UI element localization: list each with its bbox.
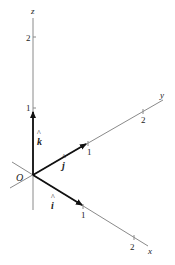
y-axis-label: y	[159, 90, 164, 100]
x-tick-label-1: 1	[81, 210, 86, 220]
k-label: k	[37, 136, 42, 147]
j-label: j	[60, 160, 65, 171]
j-vector	[33, 144, 86, 175]
y-tick-label-2: 2	[141, 115, 146, 125]
coordinate-diagram: z y x 2 1 1 2 1 2 O ^ k ^ j ^ i	[0, 0, 175, 265]
x-axis-label: x	[147, 246, 152, 256]
z-axis-label: z	[30, 6, 35, 16]
i-vector	[33, 175, 82, 205]
z-tick-label-1: 1	[26, 103, 31, 113]
y-tick-label-1: 1	[87, 147, 92, 157]
origin-label: O	[16, 172, 23, 183]
z-tick-label-2: 2	[26, 33, 31, 43]
i-label: i	[51, 200, 54, 211]
x-tick-label-2: 2	[130, 242, 135, 252]
